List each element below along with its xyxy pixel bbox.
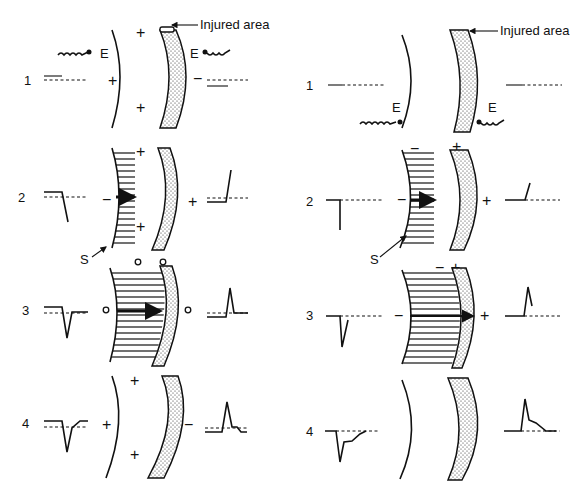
stimulus-label: S xyxy=(80,252,89,267)
left-row-3: 3 xyxy=(22,259,248,366)
charge-sign: − xyxy=(394,307,403,324)
electrode-left xyxy=(360,122,396,124)
depolarized-region xyxy=(110,268,165,362)
charge-sign: + xyxy=(136,24,145,41)
injured-area-callout: Injured area xyxy=(200,17,270,32)
charge-sign: + xyxy=(188,193,197,210)
right-row-2: 2 − − + + S xyxy=(306,138,560,267)
row-number: 4 xyxy=(306,424,313,439)
row-number: 2 xyxy=(306,194,313,209)
left-trace-4 xyxy=(325,431,366,462)
charge-sign: + xyxy=(108,72,117,89)
injured-tissue xyxy=(450,30,478,132)
injured-tissue xyxy=(152,148,178,250)
charge-sign: − xyxy=(102,191,111,208)
row-number: 3 xyxy=(306,308,313,323)
right-trace-4 xyxy=(504,399,556,431)
charge-sign: − xyxy=(193,70,202,87)
electrode-label: E xyxy=(392,100,401,115)
electrode-label: E xyxy=(190,46,199,61)
charge-sign: + xyxy=(136,218,145,235)
row-number: 1 xyxy=(24,73,31,88)
injured-tissue xyxy=(148,376,184,478)
right-row-4: 4 xyxy=(306,378,560,480)
left-trace-1 xyxy=(44,76,86,80)
electrode-label: E xyxy=(488,100,497,115)
row-number: 4 xyxy=(22,416,29,431)
left-panel: 1 E + + + Injured area E − xyxy=(18,17,270,478)
electrode-right xyxy=(481,120,504,125)
row-number: 3 xyxy=(22,303,29,318)
electrode-right xyxy=(207,50,230,55)
charge-sign: + xyxy=(102,416,111,433)
row-number: 2 xyxy=(18,190,25,205)
charge-sign: + xyxy=(136,99,145,116)
charge-sign: + xyxy=(136,143,145,160)
right-trace-1 xyxy=(207,80,248,86)
injury-current-diagram: 1 E + + + Injured area E − xyxy=(0,0,581,504)
right-trace-2 xyxy=(505,183,530,200)
right-row-1: 1 E Injured area E xyxy=(306,23,570,132)
charge-sign: + xyxy=(480,307,489,324)
charge-sign: − xyxy=(397,191,406,208)
excitation-front xyxy=(402,35,411,128)
injured-tissue xyxy=(160,30,186,128)
left-trace-4 xyxy=(44,421,88,452)
left-trace-2 xyxy=(326,200,340,230)
charge-sign: − xyxy=(184,416,193,433)
charge-sign: + xyxy=(482,192,491,209)
right-panel: 1 E Injured area E 2 − xyxy=(306,23,570,480)
left-row-4: 4 + + + − xyxy=(22,372,247,478)
electrode-left xyxy=(58,52,88,55)
injured-tissue xyxy=(448,378,478,480)
right-row-3: 3 − − + + xyxy=(306,259,562,368)
right-trace-3 xyxy=(505,287,532,316)
charge-sign: + xyxy=(130,446,139,463)
stimulus-label: S xyxy=(370,252,379,267)
left-trace-3 xyxy=(44,307,88,338)
charge-sign: + xyxy=(130,372,139,389)
left-trace-3 xyxy=(326,316,348,347)
left-row-1: 1 E + + + Injured area E − xyxy=(24,17,270,128)
injured-tissue xyxy=(450,150,477,250)
injured-area-callout: Injured area xyxy=(500,23,570,38)
left-row-2: 2 − − + + + S xyxy=(18,140,248,267)
row-number: 1 xyxy=(306,78,313,93)
right-trace-2 xyxy=(207,170,231,202)
electrode-label: E xyxy=(100,46,109,61)
excitation-front xyxy=(400,380,412,479)
